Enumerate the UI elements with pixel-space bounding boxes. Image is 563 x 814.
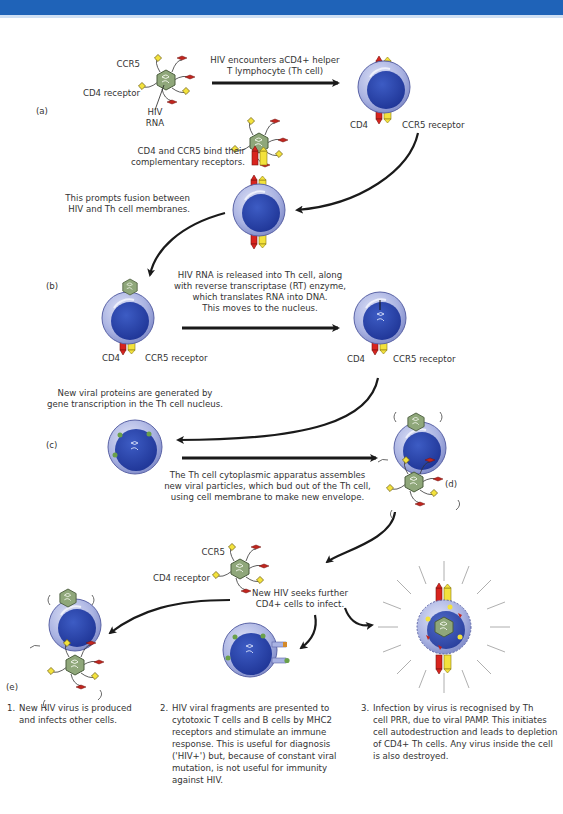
outcome-3: 3. Infection by virus is recognised by T… [361,702,561,762]
outcome-number: 2. [160,702,168,714]
outcome-number: 3. [361,702,369,714]
outcome-1: 1. New HIV virus is produced and infects… [7,702,157,726]
outcome-number: 1. [7,702,15,714]
label-cd4-receptor-new: CD4 receptor [140,573,210,584]
label-hiv-rna: HIV RNA [135,107,175,129]
caption-viral-proteins: New viral proteins are generated by gene… [40,388,230,410]
label-cd4-receptor-a: CD4 receptor [60,88,140,99]
outcome-text: HIV viral fragments are presented to cyt… [172,702,350,786]
outcome-text: Infection by virus is recognised by Th c… [373,702,561,762]
outcome-2: 2. HIV viral fragments are presented to … [160,702,350,786]
label-ccr5-receptor-a: CCR5 receptor [402,120,464,131]
label-cd4-b-right: CD4 [347,354,365,365]
caption-rna-release: HIV RNA is released into Th cell, along … [160,270,360,314]
label-ccr5-new: CCR5 [190,547,225,558]
stage-tag-e: (e) [6,682,18,693]
caption-encounter: HIV encounters aCD4+ helper T lymphocyte… [200,55,350,77]
caption-bind: CD4 and CCR5 bind their complementary re… [95,146,245,168]
stage-tag-a: (a) [36,106,48,117]
stage-tag-b: (b) [46,281,58,292]
stage-tag-c: (c) [46,440,57,451]
hiv-virus-a [138,54,195,104]
outcome-text: New HIV virus is produced and infects ot… [19,702,157,726]
caption-assembly: The Th cell cytoplasmic apparatus assemb… [160,470,375,503]
caption-seek-cells: New HIV seeks further CD4+ cells to infe… [240,588,360,610]
label-ccr5-receptor-b-left: CCR5 receptor [145,353,207,364]
label-cd4-a: CD4 [350,120,368,131]
stage-tag-d: (d) [445,479,457,490]
label-cd4-b-left: CD4 [102,353,120,364]
label-ccr5-a: CCR5 [100,59,140,70]
label-ccr5-receptor-b-right: CCR5 receptor [393,354,455,365]
caption-fusion: This prompts fusion between HIV and Th c… [40,193,190,215]
